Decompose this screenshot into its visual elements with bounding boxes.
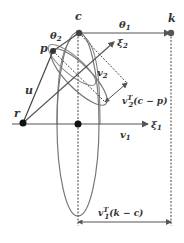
label-proj2: vT2(c − p) (122, 93, 167, 109)
label-r: r (14, 107, 21, 120)
label-proj1: vT1(k − c) (98, 205, 143, 221)
label-k: k (168, 12, 176, 25)
label-u: u (25, 84, 33, 97)
point-o (75, 121, 82, 128)
point-k (168, 30, 174, 36)
label-xi1: ξ1 (151, 119, 162, 132)
point-c (76, 30, 82, 36)
label-c: c (75, 10, 82, 23)
label-p: p (40, 42, 48, 55)
label-v1: v1 (120, 129, 131, 142)
label-xi2: ξ2 (117, 37, 128, 50)
projection-diagram: c k p r u θ1 θ2 ξ2 ξ1 v2 v1 vT2(c − p) v… (0, 0, 184, 243)
label-theta2: θ2 (50, 30, 62, 43)
label-theta1: θ1 (119, 19, 131, 32)
point-r (20, 120, 27, 127)
point-p (50, 48, 56, 54)
